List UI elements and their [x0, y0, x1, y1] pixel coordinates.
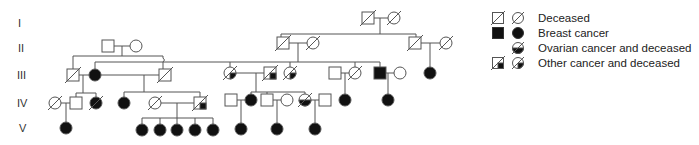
individual-IV-5-deceased-female: [148, 96, 162, 110]
individual-V-9-breast-cancer-female: [309, 123, 321, 135]
square-breast-cancer-icon: [493, 28, 504, 39]
individual-IV-11-ovarian-cancer-deceased-female: [298, 93, 312, 107]
individual-III-6-other-cancer-deceased-female: [283, 66, 297, 80]
individual-III-11-breast-cancer-female: [424, 67, 436, 79]
individual-IV-12-male: [319, 94, 331, 106]
individual-II-4-deceased-female: [306, 36, 320, 50]
individual-IV-9-male: [261, 94, 273, 106]
individual-I-2-deceased-female: [387, 11, 401, 25]
individual-III-2-breast-cancer-female: [89, 69, 101, 81]
individual-IV-3-breast-cancer-deceased-female: [89, 96, 103, 110]
individual-IV-6-other-cancer-deceased-male: [192, 95, 208, 111]
individual-V-1-breast-cancer-female: [60, 122, 72, 134]
individual-I-1-deceased-male: [360, 10, 376, 26]
individual-II-6-deceased-female: [439, 36, 453, 50]
individual-V-6-breast-cancer-female: [207, 124, 219, 136]
circle-breast-cancer-icon: [513, 28, 524, 39]
square-other-cancer-deceased-icon: [491, 56, 505, 70]
circle-deceased-icon: [512, 12, 524, 24]
legend-label: Deceased: [538, 11, 590, 25]
legend-label: Breast cancer: [538, 26, 609, 40]
individual-III-5-other-cancer-deceased-male: [262, 65, 278, 81]
pedigree-chart: [0, 0, 480, 145]
individual-IV-14-breast-cancer-female: [382, 94, 394, 106]
individual-II-2-female: [130, 40, 142, 52]
individual-IV-4-breast-cancer-female: [118, 97, 130, 109]
individual-II-1-male: [102, 40, 114, 52]
individual-III-9-breast-cancer-male: [374, 67, 386, 79]
circle-other-cancer-deceased-icon: [512, 57, 524, 69]
individual-IV-1-deceased-female: [48, 96, 62, 110]
individual-V-7-breast-cancer-female: [235, 123, 247, 135]
individual-V-4-breast-cancer-female: [171, 124, 183, 136]
individual-V-8-breast-cancer-female: [271, 123, 283, 135]
individual-V-2-breast-cancer-female: [136, 124, 148, 136]
square-deceased-icon: [491, 11, 505, 25]
legend-item-other-cancer-deceased: Other cancer and deceased: [490, 56, 699, 71]
individual-V-5-breast-cancer-female: [189, 124, 201, 136]
legend-label: Other cancer and deceased: [538, 56, 680, 70]
individual-IV-7-male: [225, 94, 237, 106]
legend-item-deceased: Deceased: [490, 11, 699, 26]
individual-IV-10-female: [281, 94, 293, 106]
circle-ovarian-cancer-deceased-icon: [512, 42, 524, 54]
individual-III-10-female: [394, 67, 406, 79]
individual-IV-13-breast-cancer-female: [339, 94, 351, 106]
individual-V-3-breast-cancer-female: [154, 124, 166, 136]
individual-III-1-deceased-male: [65, 67, 81, 83]
legend-item-ovarian-cancer-deceased: Ovarian cancer and deceased: [490, 41, 699, 56]
individual-IV-2-male: [70, 97, 82, 109]
individual-III-7-male: [329, 67, 341, 79]
individual-III-8-deceased-female: [348, 66, 362, 80]
individual-III-4-other-cancer-deceased-female: [223, 66, 237, 80]
individual-III-3-deceased-male: [157, 67, 173, 83]
individual-II-5-deceased-male: [407, 35, 423, 51]
legend-label: Ovarian cancer and deceased: [538, 41, 691, 55]
individual-IV-8-breast-cancer-female: [245, 94, 257, 106]
legend-item-breast-cancer: Breast cancer: [490, 26, 699, 41]
individual-II-3-deceased-male: [275, 35, 291, 51]
